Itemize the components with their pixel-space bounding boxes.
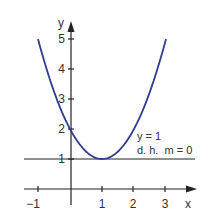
x-tick-label: 3: [162, 197, 169, 211]
chart: −1 1 2 3 x 1 2 3 4 5 y y = 1 d. h. m = 0: [0, 0, 209, 222]
x-tick-label: −1: [26, 197, 40, 211]
x-tick-label: 2: [130, 197, 137, 211]
y-axis-arrow-icon: [68, 21, 75, 32]
y-tick-label: 2: [58, 122, 65, 136]
x-tick-label: 1: [99, 197, 106, 211]
y-tick-label: 5: [58, 32, 65, 46]
y-axis-label: y: [58, 16, 64, 30]
x-axis-arrow-icon: [186, 186, 197, 193]
annotation-y-equals-1: y = 1: [137, 130, 161, 142]
y-tick-label: 4: [58, 62, 65, 76]
annotation-slope-zero: d. h. m = 0: [137, 144, 192, 156]
y-tick-label: 1: [58, 152, 65, 166]
x-axis-label: x: [185, 197, 191, 211]
y-tick-label: 3: [58, 92, 65, 106]
